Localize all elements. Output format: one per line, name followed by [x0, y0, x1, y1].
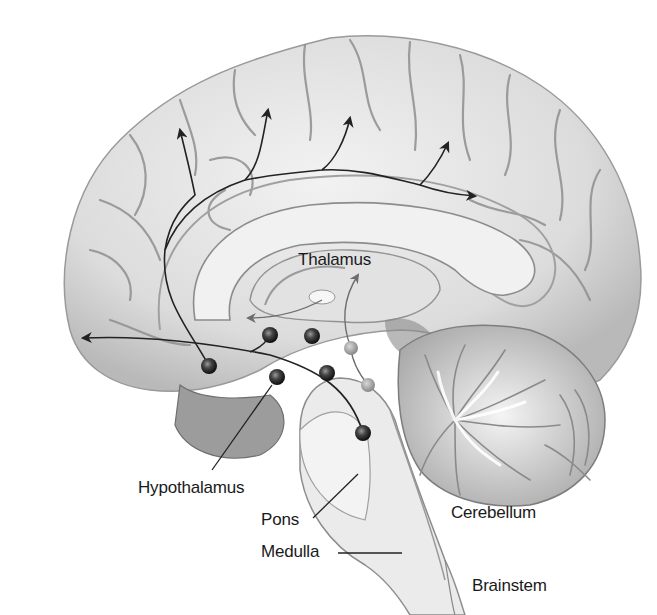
- nucleus-dot: [201, 358, 217, 374]
- nucleus-dot-light: [361, 378, 375, 392]
- label-hypothalamus: Hypothalamus: [138, 478, 244, 498]
- label-brainstem: Brainstem: [472, 576, 547, 596]
- temporal-lobe: [175, 385, 284, 458]
- brain-diagram: Thalamus Hypothalamus Pons Medulla Cereb…: [0, 0, 657, 615]
- label-cerebellum: Cerebellum: [451, 503, 536, 523]
- brain-illustration: [0, 0, 657, 615]
- label-thalamus: Thalamus: [298, 250, 371, 270]
- nucleus-dot: [262, 327, 278, 343]
- nucleus-dot: [269, 369, 285, 385]
- label-medulla: Medulla: [261, 542, 319, 562]
- nucleus-dot: [304, 328, 320, 344]
- nucleus-dot: [355, 425, 371, 441]
- nucleus-dot-light: [344, 341, 358, 355]
- nucleus-dot: [319, 365, 335, 381]
- label-pons: Pons: [261, 510, 299, 530]
- cerebrum: [64, 36, 640, 391]
